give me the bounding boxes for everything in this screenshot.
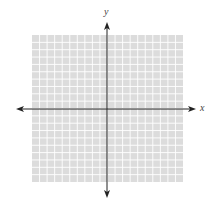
x-axis-label: x: [200, 102, 204, 113]
coordinate-plane: [0, 0, 213, 207]
y-axis-label: y: [104, 6, 108, 17]
